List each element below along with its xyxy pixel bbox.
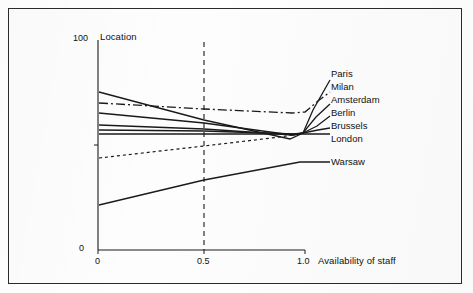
x-axis-label-0-5: 0.5 <box>197 256 210 266</box>
series-label-amsterdam: Amsterdam <box>331 94 380 105</box>
series-label-brussels: Brussels <box>331 120 367 131</box>
y-axis-min-label: 0 <box>79 243 84 253</box>
series-label-warsaw: Warsaw <box>331 156 365 167</box>
x-axis-label-0: 0 <box>95 256 100 266</box>
series-line-brussels <box>99 128 330 134</box>
x-axis-label-1-0: 1.0 <box>297 256 310 266</box>
y-axis-max-label: 100 <box>73 33 88 43</box>
x-axis-title: Availability of staff <box>318 255 396 266</box>
series-label-london: London <box>331 133 363 144</box>
series-label-berlin: Berlin <box>331 107 355 118</box>
series-label-paris: Paris <box>331 68 353 79</box>
series-line-milan <box>99 92 330 113</box>
y-axis-title: Location <box>100 31 137 42</box>
series-line-warsaw <box>99 162 330 205</box>
series-label-milan: Milan <box>331 81 354 92</box>
series-line-berlin <box>99 116 330 135</box>
chart-canvas <box>0 0 473 293</box>
series-line-dotted-unlabelled <box>99 133 303 158</box>
